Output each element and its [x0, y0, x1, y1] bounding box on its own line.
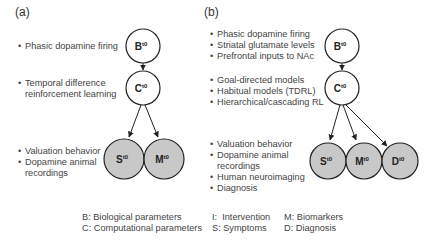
legend-column-1: B: Biological parameters C: Computationa… [82, 212, 202, 234]
diagram-canvas: Bt0 Ct0 St0 Mt0 Bt0 Ct0 St0 Mt0 Dt0 [0, 0, 430, 248]
legend-item: I: Intervention [212, 212, 270, 223]
edge-c-to-s [330, 105, 340, 140]
legend-item: B: Biological parameters [82, 212, 202, 223]
legend-item: M: Biomarkers [284, 212, 343, 223]
legend-item: C: Computational parameters [82, 223, 202, 234]
edge-c-to-s [129, 105, 141, 137]
legend-item: D: Diagnosis [284, 223, 343, 234]
edge-c-to-d [345, 104, 387, 146]
legend-item: S: Symptoms [212, 223, 270, 234]
edge-c-to-m [343, 105, 356, 140]
legend-column-2: I: Intervention S: Symptoms [212, 212, 270, 234]
legend-column-3: M: Biomarkers D: Diagnosis [284, 212, 343, 234]
edge-c-to-m [145, 105, 158, 137]
